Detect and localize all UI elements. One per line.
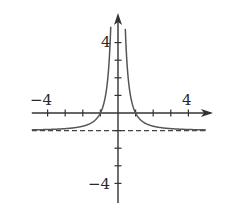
- curve-right-branch: [125, 29, 206, 130]
- y-tick-label-neg4: −4: [88, 177, 110, 192]
- x-tick-label-neg4: −4: [30, 93, 52, 108]
- y-tick-label-4: 4: [101, 35, 111, 50]
- x-tick-label-4: 4: [182, 93, 192, 108]
- curve-left-branch: [32, 27, 111, 130]
